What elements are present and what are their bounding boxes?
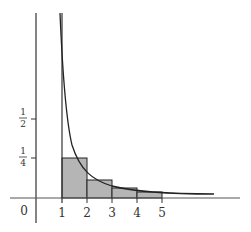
y-ticks — [31, 119, 36, 158]
rect-2-3 — [87, 180, 112, 198]
x-tick-label-3: 3 — [108, 206, 116, 220]
svg-text:2: 2 — [20, 119, 26, 129]
y-tick-label-half: 1 2 — [19, 107, 27, 129]
y-tick-label-quarter: 1 4 — [19, 146, 27, 168]
curve — [60, 13, 214, 194]
svg-text:1: 1 — [20, 146, 26, 156]
svg-text:4: 4 — [20, 158, 26, 168]
svg-text:1: 1 — [20, 107, 26, 117]
x-ticks — [87, 198, 162, 203]
rect-1-2 — [62, 158, 87, 198]
x-tick-label-4: 4 — [133, 206, 141, 220]
origin-label: 0 — [20, 204, 28, 218]
x-tick-label-2: 2 — [83, 206, 91, 220]
x-tick-label-5: 5 — [158, 206, 166, 220]
riemann-sum-chart: 0 1 2 3 4 5 1 2 1 4 — [0, 0, 251, 232]
x-tick-label-1: 1 — [58, 206, 66, 220]
